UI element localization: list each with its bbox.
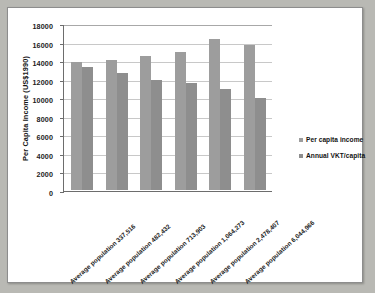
bar-group bbox=[100, 25, 135, 190]
x-axis-category-label: Average population 6,044,966 bbox=[243, 219, 315, 285]
bar bbox=[71, 62, 82, 190]
x-axis-category-label: Average population 482,432 bbox=[104, 223, 172, 285]
bar-group bbox=[65, 25, 100, 190]
legend-item: Annual VKT/capita bbox=[299, 152, 361, 159]
y-axis-tick-label: 0 bbox=[49, 189, 53, 198]
y-axis-tick-label: 10000 bbox=[33, 96, 54, 105]
x-axis-category-label: Average population 2,478,407 bbox=[208, 219, 280, 285]
y-axis-tick: 6000 bbox=[60, 136, 64, 137]
y-axis-tick: 18000 bbox=[60, 25, 64, 26]
y-axis-title-text: Per Capita Income (US$1990) bbox=[21, 56, 30, 161]
y-axis-tick: 14000 bbox=[60, 62, 64, 63]
y-axis-tick: 16000 bbox=[60, 44, 64, 45]
legend-item-label: Annual VKT/capita bbox=[306, 152, 365, 159]
y-axis-tick-label: 16000 bbox=[33, 40, 54, 49]
y-axis-tick-label: 6000 bbox=[37, 133, 53, 142]
y-axis-tick: 8000 bbox=[60, 118, 64, 119]
x-axis-category-label: Average population 1,064,273 bbox=[173, 219, 245, 285]
y-axis-tick-label: 4000 bbox=[37, 151, 53, 160]
bar-group bbox=[203, 25, 238, 190]
bar bbox=[244, 45, 255, 190]
y-axis-tick: 4000 bbox=[60, 155, 64, 156]
x-axis-category-labels: Average population 337,516Average popula… bbox=[63, 193, 272, 285]
y-axis-tick-label: 2000 bbox=[37, 170, 53, 179]
bar bbox=[220, 89, 231, 190]
legend-swatch-icon bbox=[299, 138, 303, 142]
y-axis-tick-label: 8000 bbox=[37, 114, 53, 123]
bar-group bbox=[169, 25, 204, 190]
bar bbox=[106, 60, 117, 190]
legend-item-label: Per capita income bbox=[306, 136, 363, 143]
bar bbox=[175, 52, 186, 190]
legend-swatch-icon bbox=[299, 154, 303, 158]
y-axis-tick-label: 14000 bbox=[33, 59, 54, 68]
y-axis-tick-label: 18000 bbox=[33, 22, 54, 31]
x-axis-category-label: Average population 713,903 bbox=[138, 223, 206, 285]
bar bbox=[151, 80, 162, 190]
chart-legend: Per capita income Annual VKT/capita bbox=[299, 136, 361, 168]
y-axis-tick: 12000 bbox=[60, 81, 64, 82]
y-axis-tick: 10000 bbox=[60, 99, 64, 100]
bar bbox=[255, 98, 266, 190]
bar-group bbox=[238, 25, 273, 190]
bar-group bbox=[134, 25, 169, 190]
bar bbox=[209, 39, 220, 190]
chart-figure: Per Capita Income (US$1990) 180001600014… bbox=[7, 7, 363, 283]
bar bbox=[140, 56, 151, 190]
y-axis-tick: 2000 bbox=[60, 173, 64, 174]
plot-area: 1800016000140001200010000800060004000200… bbox=[63, 25, 272, 192]
bar-groups bbox=[65, 25, 272, 190]
bar bbox=[117, 73, 128, 190]
y-axis-title: Per Capita Income (US$1990) bbox=[19, 25, 31, 192]
x-axis-category-label: Average population 337,516 bbox=[69, 223, 137, 285]
bar bbox=[82, 67, 93, 190]
y-axis-tick-label: 12000 bbox=[33, 77, 54, 86]
legend-item: Per capita income bbox=[299, 136, 361, 143]
bar bbox=[186, 83, 197, 190]
